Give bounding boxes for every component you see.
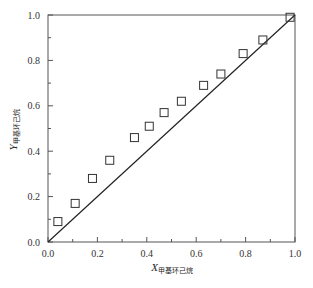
y-tick-label: 0.2 <box>28 191 41 202</box>
y-tick-label: 1.0 <box>28 10 41 21</box>
data-point-square <box>71 199 79 207</box>
data-point-square <box>106 156 114 164</box>
x-axis-label: X甲基环己烷 <box>150 261 193 275</box>
y-tick-label: 0.6 <box>28 100 41 111</box>
y-tick-label: 0.4 <box>28 146 41 157</box>
y-tick-label: 0.8 <box>28 55 41 66</box>
x-tick-label: 0.2 <box>91 248 104 259</box>
data-point-square <box>160 109 168 117</box>
x-tick-label: 0.8 <box>239 248 252 259</box>
data-point-square <box>217 70 225 78</box>
data-point-square <box>177 97 185 105</box>
x-tick-label: 0.4 <box>141 248 154 259</box>
data-point-square <box>130 134 138 142</box>
data-point-square <box>88 174 96 182</box>
data-point-square <box>200 81 208 89</box>
data-point-square <box>259 36 267 44</box>
y-tick-label: 0.0 <box>28 237 41 248</box>
data-point-square <box>239 50 247 58</box>
diagonal-line <box>48 15 295 242</box>
data-point-square <box>54 218 62 226</box>
x-tick-label: 0.0 <box>42 248 55 259</box>
x-tick-label: 1.0 <box>289 248 302 259</box>
data-point-square <box>286 13 294 21</box>
y-axis-label: Y甲基环己烷 <box>7 109 21 150</box>
scatter-chart: 0.00.20.40.60.81.0 0.00.20.40.60.81.0 X甲… <box>0 0 313 288</box>
x-tick-label: 0.6 <box>190 248 203 259</box>
data-points <box>54 13 294 225</box>
x-axis-ticks: 0.00.20.40.60.81.0 <box>42 237 302 259</box>
y-axis-ticks: 0.00.20.40.60.81.0 <box>28 10 54 248</box>
data-point-square <box>145 122 153 130</box>
